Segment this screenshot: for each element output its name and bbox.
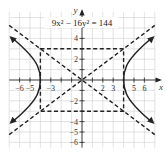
arrowhead-icon bbox=[10, 36, 17, 43]
svg-text:−2: −2 bbox=[69, 97, 78, 106]
arrowhead-icon bbox=[147, 36, 154, 43]
x-axis-label: x bbox=[158, 82, 163, 92]
equation-label: 9x² − 16y² = 144 bbox=[52, 18, 113, 28]
arrowhead-icon bbox=[10, 117, 17, 124]
svg-text:−4: −4 bbox=[69, 118, 78, 127]
svg-text:3: 3 bbox=[111, 84, 115, 93]
svg-text:6: 6 bbox=[142, 84, 146, 93]
svg-text:−5: −5 bbox=[26, 84, 35, 93]
arrowhead-icon bbox=[147, 117, 154, 124]
svg-text:2: 2 bbox=[101, 84, 105, 93]
svg-text:−5: −5 bbox=[69, 128, 78, 137]
svg-text:5: 5 bbox=[132, 84, 136, 93]
svg-text:−6: −6 bbox=[69, 138, 78, 147]
svg-text:2: 2 bbox=[74, 55, 78, 64]
svg-text:−3: −3 bbox=[47, 84, 56, 93]
svg-text:−6: −6 bbox=[15, 84, 24, 93]
y-axis-arrow-icon bbox=[79, 9, 84, 16]
x-tick-labels: −6 −5 −3 2 3 5 6 bbox=[15, 84, 146, 93]
y-axis-label: y bbox=[73, 5, 78, 15]
hyperbola-graph: 9x² − 16y² = 144 y x −6 −5 −3 2 3 5 6 4 … bbox=[0, 0, 167, 161]
svg-text:4: 4 bbox=[74, 34, 78, 43]
